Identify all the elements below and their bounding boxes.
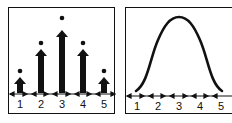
bar-panel: 1 2 3 4 5: [8, 7, 115, 114]
x-tick-label: 4: [193, 100, 207, 112]
x-tick-label: 3: [55, 98, 69, 110]
curve-panel: 1 2 3 4 5: [125, 7, 232, 114]
x-tick-label: 5: [214, 100, 228, 112]
bars: [14, 16, 110, 93]
x-tick-label: 2: [34, 98, 48, 110]
x-tick-label: 2: [151, 100, 165, 112]
x-tick-label: 4: [76, 98, 90, 110]
bell-curve: [136, 17, 222, 91]
x-tick-label: 5: [97, 98, 111, 110]
bell-curve-chart: [126, 8, 232, 115]
x-axis: [127, 94, 232, 98]
x-tick-label: 1: [130, 100, 144, 112]
x-tick-label: 1: [13, 98, 27, 110]
x-tick-label: 3: [172, 100, 186, 112]
